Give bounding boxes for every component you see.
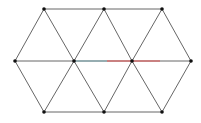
edge-t1-m1 [15,9,44,61]
triangular-lattice-diagram [0,0,201,123]
edge-b3-m4 [162,61,191,112]
vertex-t1 [42,7,46,11]
edge-t3-m4 [162,9,191,61]
vertex-m3 [130,59,134,63]
edge-b3-m3 [132,61,162,112]
edge-b2-m2 [74,61,104,112]
vertex-m2 [72,59,76,63]
vertex-t2 [102,7,106,11]
edge-b1-m1 [15,61,44,112]
edge-t2-m3 [104,9,132,61]
vertex-t3 [160,7,164,11]
vertex-b2 [102,110,106,114]
edge-t2-m2 [74,9,104,61]
edge-b1-m2 [44,61,74,112]
edge-b2-m3 [104,61,132,112]
vertex-b1 [42,110,46,114]
vertex-m4 [189,59,193,63]
edge-t3-m3 [132,9,162,61]
edge-t1-m2 [44,9,74,61]
vertex-m1 [13,59,17,63]
vertex-b3 [160,110,164,114]
